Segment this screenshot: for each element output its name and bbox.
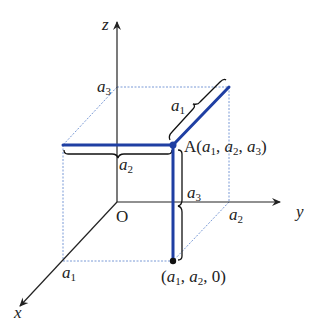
coordinate-diagram: z y x O a3 a2 a1 a1 a2 a3 A(a1, a2, a3) … [0, 0, 318, 321]
brace-a1-label: a1 [171, 97, 185, 116]
axes [20, 22, 280, 306]
point-proj-label: (a1, a2, 0) [161, 268, 226, 287]
highlight-path [63, 87, 229, 261]
point-A-dot [170, 142, 177, 149]
x-axis [20, 202, 117, 306]
brace-a3 [178, 150, 182, 260]
y-axis-label: y [296, 203, 304, 220]
z-axis-label: z [102, 16, 109, 33]
point-A-label: A(a1, a2, a3) [184, 138, 267, 157]
tick-a2-y: a2 [229, 206, 243, 225]
x-axis-label: x [14, 304, 22, 321]
brace-a2-label: a2 [119, 156, 133, 175]
point-proj-dot [170, 258, 176, 264]
brace-a3-label: a3 [187, 184, 201, 203]
tick-a1-x: a1 [62, 264, 76, 283]
origin-label: O [116, 208, 128, 225]
diagram-canvas [0, 0, 318, 321]
brace-a2 [64, 150, 172, 158]
tick-a3-z: a3 [97, 78, 111, 97]
